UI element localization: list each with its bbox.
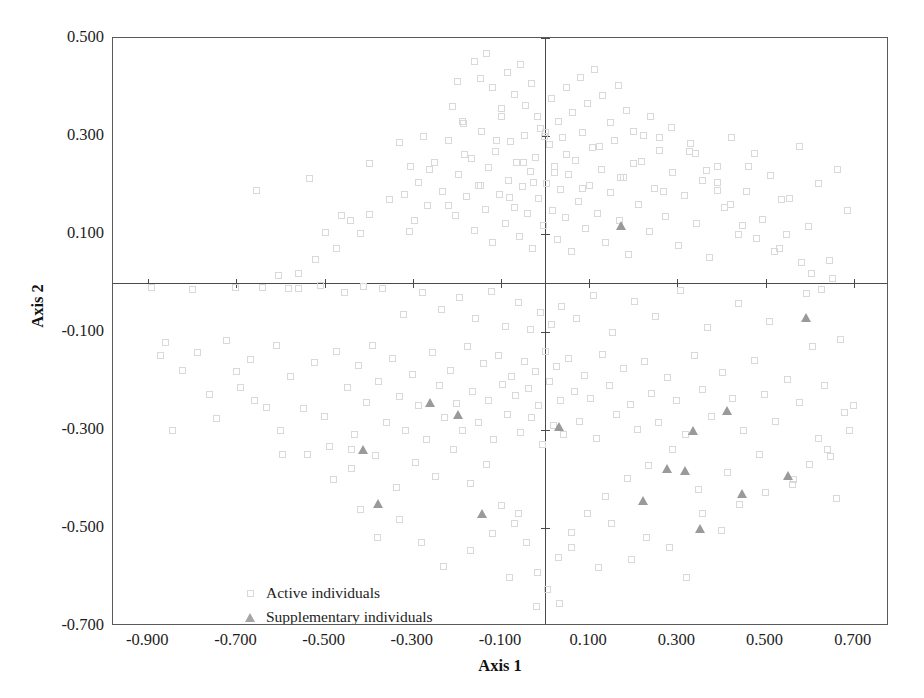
- data-point-supplementary: [688, 426, 698, 435]
- data-point-active: [253, 187, 260, 194]
- data-point-active: [456, 294, 463, 301]
- data-point-active: [506, 194, 513, 201]
- data-point-active: [232, 284, 239, 291]
- data-point-active: [383, 419, 390, 426]
- data-point-active: [587, 395, 594, 402]
- data-point-active: [454, 78, 461, 85]
- y-axis-zero-line: [545, 38, 546, 624]
- x-axis-tick-label: -0.900: [126, 630, 169, 650]
- data-point-active: [277, 427, 284, 434]
- data-point-active: [693, 220, 700, 227]
- data-point-active: [756, 451, 763, 458]
- data-point-active: [534, 113, 541, 120]
- data-point-active: [677, 287, 684, 294]
- data-point-active: [539, 441, 546, 448]
- data-point-active: [656, 134, 663, 141]
- data-point-active: [808, 270, 815, 277]
- data-point-active: [589, 144, 596, 151]
- data-point-active: [798, 259, 805, 266]
- data-point-active: [699, 177, 706, 184]
- data-point-active: [761, 391, 768, 398]
- data-point-active: [415, 179, 422, 186]
- y-axis-tick-label: 0.500: [67, 27, 104, 47]
- data-point-active: [517, 61, 524, 68]
- data-point-active: [568, 544, 575, 551]
- data-point-active: [739, 222, 746, 229]
- data-point-active: [233, 368, 240, 375]
- data-point-active: [553, 363, 560, 370]
- data-point-active: [369, 342, 376, 349]
- data-point-active: [389, 355, 396, 362]
- data-point-active: [557, 186, 564, 193]
- data-point-active: [662, 213, 669, 220]
- data-point-active: [374, 534, 381, 541]
- data-point-active: [751, 357, 758, 364]
- y-axis-tick: [541, 38, 550, 39]
- data-point-active: [543, 180, 550, 187]
- data-point-active: [762, 489, 769, 496]
- data-point-active: [504, 411, 511, 418]
- data-point-active: [279, 451, 286, 458]
- data-point-active: [471, 58, 478, 65]
- data-point-active: [815, 435, 822, 442]
- data-point-active: [699, 386, 706, 393]
- data-point-active: [189, 286, 196, 293]
- data-point-active: [565, 171, 572, 178]
- data-point-active: [326, 443, 333, 450]
- data-point-active: [300, 405, 307, 412]
- data-point-active: [366, 211, 373, 218]
- data-point-supplementary: [453, 410, 463, 419]
- plot-area: Active individuals Supplementary individ…: [112, 37, 888, 625]
- data-point-active: [452, 212, 459, 219]
- data-point-active: [577, 74, 584, 81]
- data-point-active: [544, 586, 551, 593]
- data-point-active: [396, 393, 403, 400]
- data-point-active: [511, 91, 518, 98]
- y-axis-title: Axis 2: [28, 246, 48, 366]
- data-point-active: [453, 400, 460, 407]
- data-point-active: [498, 105, 505, 112]
- data-point-active: [482, 206, 489, 213]
- data-point-active: [485, 397, 492, 404]
- data-point-active: [579, 129, 586, 136]
- data-point-active: [426, 166, 433, 173]
- data-point-active: [513, 159, 520, 166]
- data-point-active: [593, 435, 600, 442]
- data-point-active: [459, 427, 466, 434]
- data-point-active: [558, 303, 565, 310]
- data-point-active: [681, 192, 688, 199]
- data-point-active: [735, 231, 742, 238]
- data-point-active: [821, 382, 828, 389]
- data-point-active: [432, 473, 439, 480]
- data-point-active: [834, 166, 841, 173]
- data-point-active: [706, 254, 713, 261]
- data-point-active: [502, 323, 509, 330]
- data-point-active: [498, 113, 505, 120]
- data-point-active: [341, 289, 348, 296]
- data-point-active: [850, 402, 857, 409]
- data-point-active: [412, 459, 419, 466]
- data-point-active: [169, 427, 176, 434]
- data-point-active: [506, 574, 513, 581]
- data-point-active: [396, 516, 403, 523]
- data-point-active: [565, 355, 572, 362]
- data-point-active: [786, 195, 793, 202]
- data-point-active: [555, 118, 562, 125]
- data-point-active: [833, 495, 840, 502]
- data-point-active: [237, 384, 244, 391]
- data-point-active: [520, 159, 527, 166]
- data-point-active: [841, 409, 848, 416]
- data-point-active: [287, 373, 294, 380]
- data-point-active: [532, 368, 539, 375]
- x-axis-tick-label: 0.500: [746, 630, 783, 650]
- data-point-active: [704, 324, 711, 331]
- y-axis-tick: [541, 430, 550, 431]
- data-point-active: [568, 529, 575, 536]
- data-point-active: [333, 245, 340, 252]
- data-point-active: [745, 163, 752, 170]
- data-point-supplementary: [680, 466, 690, 475]
- data-point-active: [656, 147, 663, 154]
- data-point-active: [563, 84, 570, 91]
- data-point-active: [714, 187, 721, 194]
- data-point-active: [724, 469, 731, 476]
